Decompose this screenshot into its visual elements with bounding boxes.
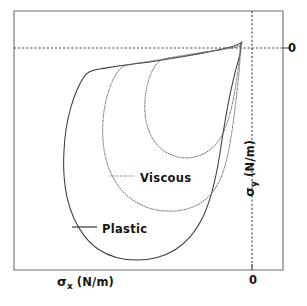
legend-label-viscous: Viscous: [140, 171, 191, 185]
x-axis-label: σx(N/m): [57, 274, 114, 291]
curve-viscous-inner: [145, 45, 242, 158]
stress-locus-figure: σx(N/m) σy(N/m) 0 0 Viscous Plastic: [0, 0, 307, 306]
y-axis-subscript: y: [249, 181, 259, 187]
y-axis-unit: (N/m): [243, 140, 257, 177]
plot-canvas: [0, 0, 307, 306]
legend-label-plastic: Plastic: [102, 222, 147, 236]
y-axis-symbol: σ: [242, 187, 257, 197]
x-axis-unit: (N/m): [77, 275, 114, 289]
x-axis-subscript: x: [67, 281, 73, 291]
x-axis-zero-tick-label: 0: [249, 273, 257, 287]
x-axis-symbol: σ: [57, 274, 67, 289]
curve-viscous-outer: [103, 43, 242, 211]
y-axis-label: σy(N/m): [242, 140, 259, 197]
y-axis-zero-tick-label: 0: [288, 41, 296, 55]
